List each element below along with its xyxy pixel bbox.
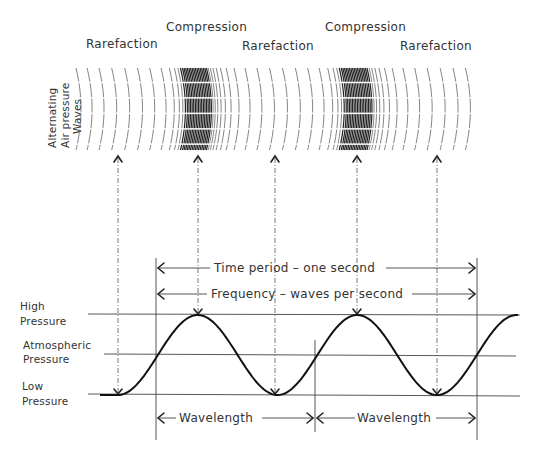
frequency-label: Frequency – waves per second <box>211 287 403 301</box>
atmospheric-pressure-line <box>104 354 516 356</box>
pressure-arc <box>282 68 287 150</box>
label-compression-2: Compression <box>325 20 406 34</box>
pressure-arc <box>138 68 143 150</box>
pressure-arc <box>453 68 458 150</box>
pressure-arc <box>403 68 408 150</box>
pressure-arc <box>384 68 389 150</box>
pressure-arc <box>257 68 262 150</box>
pressure-arc <box>245 68 250 150</box>
pressure-arc <box>328 68 333 150</box>
pressure-arc <box>87 68 92 150</box>
label-rarefaction-2: Rarefaction <box>242 39 314 53</box>
pressure-arc <box>465 68 470 150</box>
pressure-arc <box>169 68 174 150</box>
side-label-air-pressure-waves: Alternating Air pressure Waves <box>46 82 83 148</box>
pressure-arc <box>150 68 155 150</box>
label-high: High <box>20 300 45 312</box>
label-low-pressure: Pressure <box>22 395 68 407</box>
time-period-label: Time period – one second <box>213 261 375 275</box>
pressure-arc <box>427 68 432 150</box>
frequency-dimension: Frequency – waves per second <box>158 287 475 301</box>
sound-wave-diagram: Rarefaction Compression Rarefaction Comp… <box>0 0 540 458</box>
wavelength-dimension-1: Wavelength <box>158 411 313 425</box>
pressure-arc <box>375 68 380 150</box>
label-atmospheric-pressure: Pressure <box>23 353 69 365</box>
label-atmospheric: Atmospheric <box>23 339 91 351</box>
pressure-wave-arcs <box>76 68 470 150</box>
pressure-arc <box>178 68 183 150</box>
pressure-arc <box>216 68 221 150</box>
pressure-arc <box>234 68 239 150</box>
pressure-arc <box>308 68 313 150</box>
pressure-arc <box>392 68 397 150</box>
pressure-arc <box>319 68 324 150</box>
side-label-line-2: Air pressure <box>59 82 71 148</box>
pressure-arc <box>269 68 274 150</box>
wavelength-1-label: Wavelength <box>179 411 253 425</box>
side-label-line-1: Alternating <box>46 88 58 148</box>
pressure-arc <box>333 68 338 150</box>
pressure-arc <box>226 68 231 150</box>
pressure-arc <box>295 68 300 150</box>
pressure-arc <box>174 68 179 150</box>
label-rarefaction-1: Rarefaction <box>86 37 158 51</box>
label-low: Low <box>22 380 43 392</box>
pressure-arc <box>112 68 117 150</box>
high-pressure-line <box>88 314 520 315</box>
pressure-arc <box>415 68 420 150</box>
label-high-pressure: Pressure <box>20 315 66 327</box>
time-period-dimension: Time period – one second <box>158 261 475 275</box>
pressure-arc <box>161 68 166 150</box>
wavelength-2-label: Wavelength <box>357 411 431 425</box>
pressure-arc <box>125 68 130 150</box>
pressure-arc <box>440 68 445 150</box>
low-pressure-line <box>88 394 520 396</box>
phase-markers <box>114 156 441 394</box>
pressure-arc <box>337 68 342 150</box>
label-compression-1: Compression <box>166 20 247 34</box>
pressure-arc <box>99 68 104 150</box>
wavelength-dimension-2: Wavelength <box>317 411 475 425</box>
label-rarefaction-3: Rarefaction <box>400 39 472 53</box>
